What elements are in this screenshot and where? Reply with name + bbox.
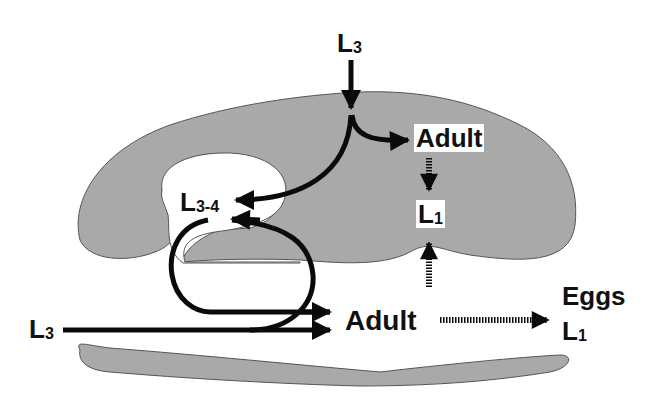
label-sub: 3 bbox=[353, 38, 362, 56]
label-text: Adult bbox=[416, 123, 482, 153]
label-main: L bbox=[562, 316, 578, 346]
label-adult-lower: Adult bbox=[345, 307, 417, 335]
label-l34: L3-4 bbox=[180, 189, 219, 215]
label-eggs: Eggs bbox=[562, 283, 626, 309]
tissue-lower bbox=[79, 344, 569, 386]
label-l1-upper: L1 bbox=[416, 200, 445, 228]
label-adult-upper: Adult bbox=[414, 124, 484, 152]
label-main: L bbox=[29, 314, 45, 344]
label-sub: 1 bbox=[578, 326, 587, 344]
label-main: L bbox=[337, 28, 353, 58]
label-main: L bbox=[418, 199, 434, 229]
label-main: L bbox=[180, 187, 196, 217]
label-left-l3: L3 bbox=[29, 316, 54, 342]
tissue-upper bbox=[78, 92, 576, 263]
label-text: Eggs bbox=[562, 281, 626, 311]
label-top-l3: L3 bbox=[337, 30, 362, 56]
label-sub: 3 bbox=[45, 324, 54, 342]
label-l1-lower: L1 bbox=[562, 318, 587, 344]
life-cycle-diagram bbox=[0, 0, 666, 408]
label-text: Adult bbox=[345, 305, 417, 336]
label-sub: 3-4 bbox=[196, 197, 219, 215]
label-sub: 1 bbox=[434, 209, 443, 227]
